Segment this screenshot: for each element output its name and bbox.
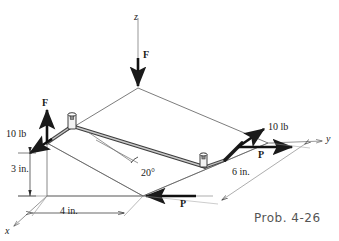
bearing-left [68,113,76,129]
problem-figure: z y x F F 10 lb 10 lb P P 3 in. 4 in. 6 … [0,0,339,241]
dimension-depth-label: 6 in. [232,167,250,177]
bearing-right [200,153,207,167]
dimension-vertical-label: 3 in. [11,164,29,174]
force-f-origin-label: F [42,98,48,108]
dimension-horizontal-label: 4 in. [60,206,78,216]
magnitude-left-label: 10 lb [6,129,26,139]
figure-caption: Prob. 4-26 [254,212,321,224]
force-f-top-label: F [143,50,149,60]
magnitude-right-label: 10 lb [268,122,288,132]
y-axis-label: y [326,134,330,144]
z-axis-label: z [134,12,138,22]
x-axis [14,196,47,226]
angle-label: 20° [141,168,155,178]
force-p-right-label: P [258,150,264,160]
figure-drawing [0,0,339,241]
force-p-bottom-label: P [180,199,186,209]
y-axis [268,141,322,143]
x-axis-label: x [5,226,9,236]
force-10lb-left-arrow [30,139,52,153]
bent-rod [47,126,242,167]
dimension-vertical [18,153,36,196]
inclined-plane [47,88,268,196]
angle-leader-lines [88,132,138,163]
dimension-horizontal [32,196,143,216]
